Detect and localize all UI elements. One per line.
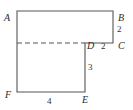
vertex-label-d: D [87, 41, 94, 51]
measure-label-fe: 4 [47, 96, 52, 106]
figure-canvas [0, 0, 133, 110]
measure-label-de: 3 [88, 62, 93, 72]
vertex-label-e: E [82, 95, 88, 105]
geometry-figure: A B C D E F 2 2 3 4 [0, 0, 133, 110]
measure-label-dc: 2 [101, 41, 106, 51]
vertex-label-c: C [118, 41, 125, 51]
polygon-outline [17, 11, 113, 92]
vertex-label-b: B [118, 13, 124, 23]
vertex-label-f: F [5, 90, 11, 100]
vertex-label-a: A [4, 13, 10, 23]
measure-label-bc: 2 [117, 24, 122, 34]
